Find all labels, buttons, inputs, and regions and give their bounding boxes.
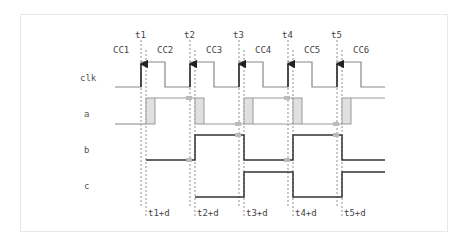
cycle-label-cc2: CC2: [157, 45, 173, 55]
c-waveform: [195, 172, 385, 197]
cycle-label-cc5: CC5: [304, 45, 320, 55]
clk-waveform: [115, 62, 385, 87]
delay-label-t2d: t2+d: [197, 208, 219, 218]
delay-label-t3d: t3+d: [246, 208, 268, 218]
edge-label-t2: t2: [184, 30, 195, 40]
cycle-label-cc1: CC1: [113, 45, 129, 55]
clk-rising-edge-arrows: [141, 64, 337, 87]
edge-label-t3: t3: [233, 30, 244, 40]
edge-label-t1: t1: [135, 30, 146, 40]
cycle-label-cc3: CC3: [206, 45, 222, 55]
cycle-label-cc4: CC4: [255, 45, 271, 55]
edge-label-t4: t4: [282, 30, 293, 40]
b-waveform: [146, 135, 385, 160]
signal-label-b: b: [84, 145, 89, 155]
delay-label-t5d: t5+d: [344, 208, 366, 218]
signal-label-a: a: [84, 109, 89, 119]
b-sample-marks: [186, 133, 339, 162]
delay-label-t1d: t1+d: [148, 208, 170, 218]
edge-label-t5: t5: [331, 30, 342, 40]
timing-diagram: CC1 CC2 CC3 CC4 CC5 CC6 t1 t2 t3 t4 t5 t…: [0, 0, 465, 249]
signal-label-c: c: [84, 181, 89, 191]
cycle-label-cc6: CC6: [353, 45, 369, 55]
a-waveform: [115, 96, 385, 126]
delay-label-t4d: t4+d: [295, 208, 317, 218]
signal-label-clk: clk: [80, 73, 97, 83]
